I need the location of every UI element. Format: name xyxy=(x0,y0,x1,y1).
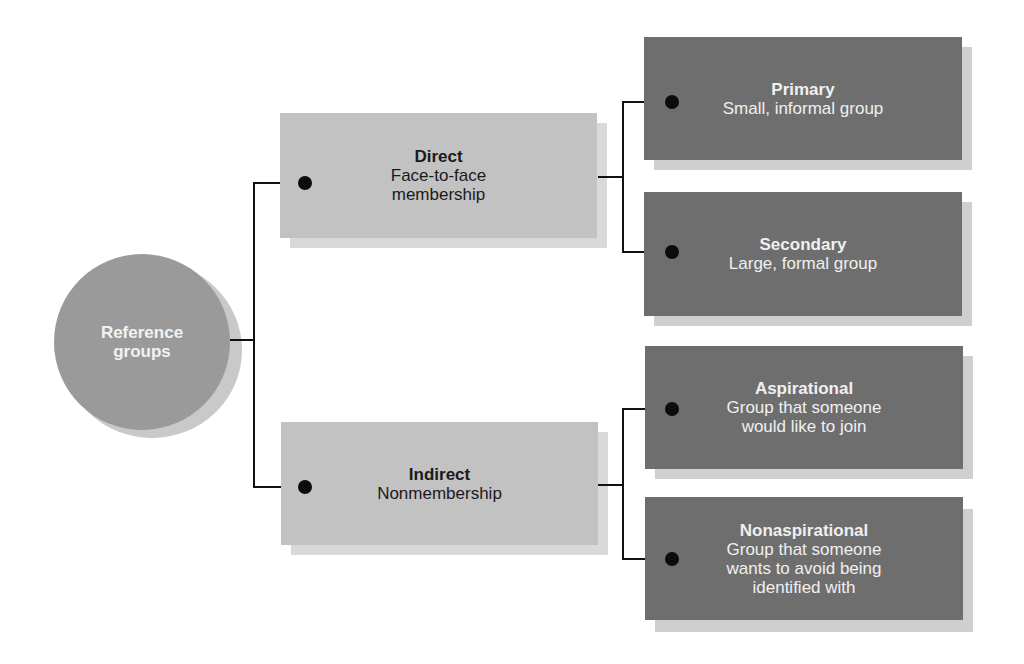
primary-desc-line1: Small, informal group xyxy=(723,99,884,118)
node-indirect: Indirect Nonmembership xyxy=(281,422,598,545)
node-aspirational: Aspirational Group that someone would li… xyxy=(645,346,963,469)
indirect-title: Indirect xyxy=(409,465,470,484)
secondary-desc-line1: Large, formal group xyxy=(729,254,877,273)
nonaspirational-desc-line2: wants to avoid being xyxy=(727,559,882,578)
node-nonaspirational: Nonaspirational Group that someone wants… xyxy=(645,497,963,620)
nonaspirational-desc-line1: Group that someone xyxy=(727,540,882,559)
secondary-connector-dot xyxy=(665,245,679,259)
primary-title: Primary xyxy=(771,80,834,99)
root-node-reference-groups: Reference groups xyxy=(54,254,230,430)
connector-indirect-trunk xyxy=(622,408,624,560)
nonaspirational-desc-line3: identified with xyxy=(752,578,855,597)
connector-indirect-stub xyxy=(598,484,623,486)
nonaspirational-title: Nonaspirational xyxy=(740,521,868,540)
root-label-line1: Reference xyxy=(101,323,183,342)
connector-direct-trunk xyxy=(622,101,624,253)
direct-title: Direct xyxy=(414,147,462,166)
secondary-title: Secondary xyxy=(760,235,847,254)
primary-connector-dot xyxy=(665,95,679,109)
connector-root-stub xyxy=(230,339,254,341)
aspirational-title: Aspirational xyxy=(755,379,853,398)
connector-direct-stub xyxy=(598,176,623,178)
direct-connector-dot xyxy=(298,176,312,190)
aspirational-desc-line2: would like to join xyxy=(742,417,867,436)
indirect-desc-line1: Nonmembership xyxy=(377,484,502,503)
aspirational-connector-dot xyxy=(665,402,679,416)
nonaspirational-connector-dot xyxy=(665,552,679,566)
direct-desc-line1: Face-to-face xyxy=(391,166,486,185)
node-direct: Direct Face-to-face membership xyxy=(280,113,597,238)
node-secondary: Secondary Large, formal group xyxy=(644,192,962,316)
aspirational-desc-line1: Group that someone xyxy=(727,398,882,417)
root-label-line2: groups xyxy=(101,342,183,361)
indirect-connector-dot xyxy=(298,480,312,494)
direct-desc-line2: membership xyxy=(392,185,486,204)
connector-left-trunk xyxy=(253,182,255,488)
node-primary: Primary Small, informal group xyxy=(644,37,962,160)
